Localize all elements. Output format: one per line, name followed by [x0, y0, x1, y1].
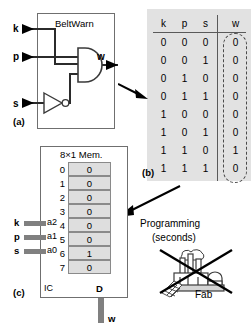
memory-address-index: 7 — [55, 262, 65, 273]
address-bus-bar — [24, 221, 46, 226]
arrowhead-s — [22, 98, 34, 108]
memory-address-index: 0 — [55, 164, 65, 175]
address-bus-bar — [24, 235, 46, 240]
memory-row: 20 — [68, 190, 111, 204]
output-bus-w — [98, 298, 104, 323]
panel-b-label: (b) — [142, 168, 154, 178]
truth-cell: 0 — [174, 51, 195, 69]
memory-cell-value[interactable]: 0 — [68, 162, 111, 176]
col-header-s: s — [195, 15, 216, 33]
truth-cell: 1 — [174, 141, 195, 159]
input-label-s: s — [13, 99, 19, 109]
panel-c-label: (c) — [13, 288, 25, 298]
w-column-highlight — [223, 33, 247, 183]
memory-address-index: 3 — [55, 206, 65, 217]
memory-cell-list: 0010203040506170 — [68, 162, 111, 274]
memory-cell-value[interactable]: 0 — [68, 176, 111, 190]
fab-label: Fab — [195, 290, 212, 300]
truth-cell: 0 — [153, 69, 174, 87]
truth-table-header-row: k p s w — [153, 15, 246, 33]
col-header-p: p — [174, 15, 195, 33]
truth-cell: 0 — [174, 33, 195, 52]
memory-row: 70 — [68, 260, 111, 274]
address-pin-label: a2 — [47, 217, 57, 227]
memory-row: 30 — [68, 204, 111, 218]
memory-row: 40 — [68, 218, 111, 232]
address-pin-label: a1 — [47, 231, 57, 241]
memory-row: 61 — [68, 246, 111, 260]
address-signal-label: p — [14, 231, 20, 242]
memory-cell-value[interactable]: 0 — [68, 232, 111, 246]
truth-cell: 1 — [153, 105, 174, 123]
memory-cell-value[interactable]: 0 — [68, 190, 111, 204]
address-bus-bar — [24, 249, 46, 254]
input-label-k: k — [13, 24, 19, 34]
col-header-w: w — [225, 15, 246, 33]
truth-cell: 1 — [174, 87, 195, 105]
memory-address-index: 1 — [55, 178, 65, 189]
wire-s-inverted — [64, 74, 78, 103]
truth-table: k p s w 00000010010001101000101011011110 — [147, 9, 251, 181]
arrowhead-k — [22, 24, 34, 34]
panel-a-label: (a) — [13, 117, 25, 127]
figure-root: BeltWarn k p s w (a) k — [0, 0, 251, 332]
memory-row: 10 — [68, 176, 111, 190]
memory-cell-value[interactable]: 0 — [68, 218, 111, 232]
truth-cell: 1 — [153, 159, 174, 177]
programming-label-line2: (seconds) — [152, 233, 196, 243]
truth-cell: 0 — [195, 69, 216, 87]
truth-cell: 1 — [195, 123, 216, 141]
memory-cell-value[interactable]: 1 — [68, 246, 111, 260]
memory-title: 8×1 Mem. — [60, 150, 103, 160]
truth-cell: 1 — [174, 69, 195, 87]
truth-cell: 0 — [174, 123, 195, 141]
inverter-icon — [44, 93, 62, 113]
truth-cell: 1 — [195, 87, 216, 105]
arrowhead-w — [106, 60, 118, 70]
address-pin-label: a0 — [47, 245, 57, 255]
address-signal-label: k — [14, 217, 19, 228]
input-label-p: p — [13, 52, 19, 62]
col-header-k: k — [153, 15, 174, 33]
truth-cell: 0 — [153, 33, 174, 52]
truth-cell: 0 — [195, 141, 216, 159]
programming-label-line1: Programming — [140, 219, 200, 229]
arrow-a-to-b — [118, 82, 150, 104]
truth-cell: 1 — [174, 159, 195, 177]
memory-output-label: w — [108, 314, 115, 324]
truth-cell: 0 — [153, 51, 174, 69]
ic-label: IC — [44, 284, 53, 293]
memory-cell-value[interactable]: 0 — [68, 260, 111, 274]
wire-k — [22, 29, 78, 64]
truth-cell: 0 — [195, 33, 216, 52]
truth-cell: 1 — [195, 51, 216, 69]
truth-cell: 0 — [174, 105, 195, 123]
output-label-w: w — [97, 52, 105, 62]
truth-table-divider — [217, 15, 218, 181]
truth-cell: 0 — [153, 87, 174, 105]
inverter-bubble-icon — [62, 100, 69, 107]
memory-cell-value[interactable]: 0 — [68, 204, 111, 218]
memory-row: 00 — [68, 162, 111, 176]
truth-cell: 0 — [195, 105, 216, 123]
memory-address-index: 2 — [55, 192, 65, 203]
truth-cell: 1 — [153, 141, 174, 159]
address-signal-label: s — [14, 245, 19, 256]
arrowhead-p — [22, 52, 34, 62]
truth-cell: 1 — [153, 123, 174, 141]
data-pin-label: D — [96, 284, 103, 294]
memory-row: 50 — [68, 232, 111, 246]
truth-cell: 1 — [195, 159, 216, 177]
